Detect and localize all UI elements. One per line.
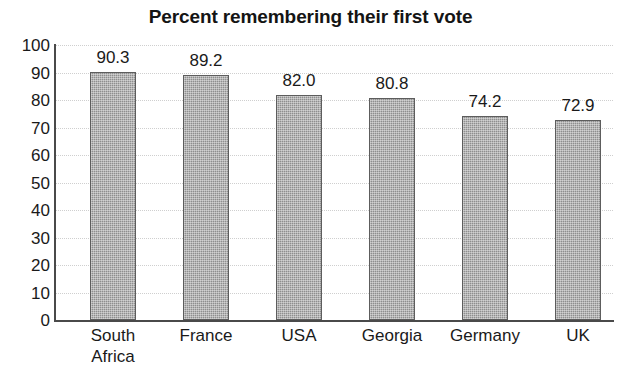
y-axis-tick-label: 100 — [4, 37, 50, 54]
y-axis-tick-label: 30 — [4, 230, 50, 247]
bar-group: 90.3 — [68, 45, 158, 320]
bar-value-label: 74.2 — [440, 93, 530, 110]
bar-group: 74.2 — [440, 45, 530, 320]
bar-value-label: 82.0 — [254, 72, 344, 89]
plot-area: 90.389.282.080.874.272.9 — [55, 45, 613, 320]
bar — [555, 120, 601, 320]
chart-title: Percent remembering their first vote — [0, 6, 621, 28]
y-axis-tick-label: 60 — [4, 147, 50, 164]
x-axis-category-labels: South AfricaFranceUSAGeorgiaGermanyUK — [55, 326, 613, 384]
x-axis-category-label: South Africa — [68, 326, 158, 367]
y-axis-tick-label: 0 — [4, 312, 50, 329]
y-axis-tick-label: 20 — [4, 257, 50, 274]
y-axis-line — [54, 44, 56, 321]
bar — [183, 75, 229, 320]
y-axis-tick-label: 10 — [4, 285, 50, 302]
bar — [462, 116, 508, 320]
y-axis-tick-label: 90 — [4, 65, 50, 82]
bar-chart: Percent remembering their first vote 100… — [0, 0, 621, 387]
x-axis-category-label: Georgia — [347, 326, 437, 347]
bar — [90, 72, 136, 320]
x-axis-category-label: UK — [533, 326, 621, 347]
bar-group: 80.8 — [347, 45, 437, 320]
y-axis-tick-label: 50 — [4, 175, 50, 192]
bar-value-label: 90.3 — [68, 49, 158, 66]
y-axis-tick-labels: 1009080706050403020100 — [0, 0, 50, 387]
x-axis-category-label: France — [161, 326, 251, 347]
bar — [369, 98, 415, 320]
bar-value-label: 80.8 — [347, 75, 437, 92]
x-axis-line — [54, 320, 614, 322]
y-axis-tick-label: 40 — [4, 202, 50, 219]
bar-value-label: 89.2 — [161, 52, 251, 69]
y-axis-tick-label: 70 — [4, 120, 50, 137]
bar — [276, 95, 322, 321]
bar-group: 82.0 — [254, 45, 344, 320]
y-axis-tick-label: 80 — [4, 92, 50, 109]
x-axis-category-label: USA — [254, 326, 344, 347]
bar-value-label: 72.9 — [533, 97, 621, 114]
x-axis-category-label: Germany — [440, 326, 530, 347]
bar-group: 72.9 — [533, 45, 621, 320]
bar-group: 89.2 — [161, 45, 251, 320]
